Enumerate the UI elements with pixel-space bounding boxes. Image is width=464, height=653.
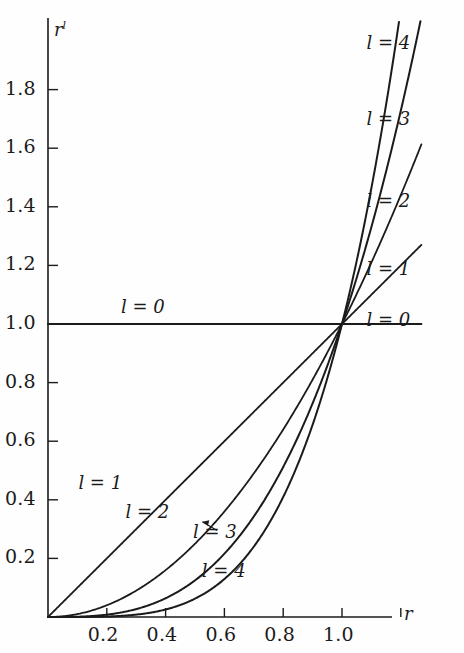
y-tick-label: 0.8 bbox=[5, 372, 36, 391]
curve-label-l2: l = 2 bbox=[125, 503, 169, 521]
x-tick-label: 0.6 bbox=[205, 625, 236, 644]
curve-label-r3: l = 3 bbox=[367, 110, 411, 128]
curve-label-r0: l = 0 bbox=[367, 311, 411, 329]
curve-label-l3: l = 3 bbox=[193, 523, 237, 541]
x-tick-label: 0.2 bbox=[88, 625, 119, 644]
figure-canvas: rl r 0.20.40.60.81.0 0.20.40.60.81.01.21… bbox=[0, 0, 464, 653]
curve-label-r4: l = 4 bbox=[367, 34, 411, 52]
y-tick-label: 0.4 bbox=[5, 489, 36, 508]
y-axis-label-exponent: l bbox=[63, 19, 67, 32]
y-axis-label-base: r bbox=[54, 19, 63, 40]
x-tick-label: 1.0 bbox=[323, 625, 354, 644]
y-axis-label: rl bbox=[54, 20, 66, 39]
curve-label-r2: l = 2 bbox=[367, 192, 411, 210]
curve-label-l0: l = 0 bbox=[121, 298, 165, 316]
curve-label-l4: l = 4 bbox=[202, 562, 246, 580]
y-tick-label: 0.2 bbox=[5, 547, 36, 566]
curve-label-l1: l = 1 bbox=[78, 474, 122, 492]
y-tick-label: 1.4 bbox=[5, 196, 36, 215]
x-axis-label: r bbox=[404, 605, 413, 623]
curve-label-r1: l = 1 bbox=[367, 260, 411, 278]
y-tick-label: 1.8 bbox=[5, 79, 36, 98]
y-tick-label: 1.2 bbox=[5, 254, 36, 273]
y-tick-label: 1.6 bbox=[5, 137, 36, 156]
y-tick-label: 1.0 bbox=[5, 313, 36, 332]
y-tick-label: 0.6 bbox=[5, 430, 36, 449]
x-tick-label: 0.4 bbox=[147, 625, 178, 644]
x-tick-label: 0.8 bbox=[264, 625, 295, 644]
